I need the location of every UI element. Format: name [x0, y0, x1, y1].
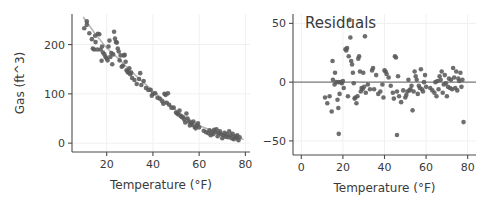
data-point	[452, 75, 457, 80]
y-tick-label: 200	[44, 39, 65, 52]
panel-gas-vs-temperature: 204060800100200Temperature (°F)Gas (ft^3…	[0, 0, 252, 222]
data-point	[378, 89, 383, 94]
data-points	[323, 18, 466, 138]
data-point	[197, 125, 202, 130]
data-point	[335, 97, 340, 102]
data-point	[351, 70, 356, 75]
data-point	[419, 67, 424, 72]
y-tick-label: 0	[58, 137, 65, 150]
data-point	[329, 109, 334, 114]
data-point	[443, 73, 448, 78]
data-point	[346, 94, 351, 99]
panel-residuals-vs-temperature: 020406080−50050Temperature (°F)Residuals	[252, 0, 498, 222]
data-point	[336, 132, 341, 137]
data-point	[388, 83, 393, 88]
fit-line	[84, 17, 244, 139]
data-point	[116, 49, 121, 54]
x-axis-title: Temperature (°F)	[332, 181, 435, 195]
data-point	[395, 133, 400, 138]
data-point	[333, 70, 338, 75]
data-point	[129, 70, 134, 75]
data-point	[410, 108, 415, 113]
data-point	[434, 94, 439, 99]
data-point	[153, 91, 158, 96]
data-point	[99, 59, 104, 64]
data-point	[381, 95, 386, 100]
data-point	[374, 73, 379, 78]
y-tick-label: 100	[44, 88, 65, 101]
data-point	[138, 71, 143, 76]
data-point	[191, 119, 196, 124]
panel-title: Residuals	[305, 14, 376, 32]
x-tick-label: 0	[298, 161, 305, 174]
data-point	[368, 87, 373, 92]
x-tick-label: 20	[100, 158, 114, 171]
data-point	[123, 60, 128, 65]
data-point	[411, 89, 416, 94]
data-point	[177, 108, 182, 113]
data-point	[423, 73, 428, 78]
data-point	[97, 32, 102, 37]
x-axis-title: Temperature (°F)	[109, 178, 212, 192]
data-point	[351, 81, 356, 86]
data-point	[421, 89, 426, 94]
data-point	[139, 83, 144, 88]
data-point	[459, 85, 464, 90]
data-point	[90, 37, 95, 42]
data-point	[330, 59, 335, 64]
data-point	[112, 29, 117, 34]
data-point	[93, 40, 98, 45]
data-point	[327, 94, 332, 99]
data-point	[117, 58, 122, 63]
data-point	[414, 78, 419, 83]
y-axis-title: Gas (ft^3)	[13, 52, 27, 115]
data-point	[371, 66, 376, 71]
data-point	[438, 78, 443, 83]
data-point	[409, 83, 414, 88]
data-point	[141, 79, 146, 84]
data-point	[424, 85, 429, 90]
data-point	[366, 82, 371, 87]
data-point	[196, 121, 201, 126]
x-tick-label: 80	[238, 158, 252, 171]
data-point	[401, 88, 406, 93]
data-points	[82, 19, 242, 142]
data-point	[341, 86, 346, 91]
data-point	[148, 88, 153, 93]
data-point	[337, 92, 342, 97]
data-point	[391, 90, 396, 95]
x-tick-label: 20	[336, 161, 350, 174]
residuals-scatter-plot: 020406080−50050Temperature (°F)Residuals	[252, 0, 498, 222]
y-tick-label: 0	[279, 76, 286, 89]
data-point	[396, 74, 401, 79]
data-point	[122, 53, 127, 58]
data-point	[346, 54, 351, 59]
data-point	[341, 79, 346, 84]
data-point	[380, 82, 385, 87]
x-tick-label: 80	[461, 161, 475, 174]
x-tick-label: 40	[146, 158, 160, 171]
data-point	[345, 46, 350, 51]
data-point	[100, 44, 105, 49]
data-point	[422, 80, 427, 85]
data-point	[357, 54, 362, 59]
data-point	[121, 63, 126, 68]
x-tick-label: 60	[419, 161, 433, 174]
data-point	[458, 70, 463, 75]
data-point	[392, 96, 397, 101]
data-point	[171, 105, 176, 110]
data-point	[461, 120, 466, 125]
data-point	[372, 87, 377, 92]
data-point	[363, 34, 368, 39]
data-point	[354, 101, 359, 106]
y-tick-label: −50	[263, 135, 286, 148]
data-point	[132, 78, 137, 83]
data-point	[237, 135, 242, 140]
data-point	[455, 88, 460, 93]
data-point	[436, 87, 441, 92]
data-point	[111, 52, 116, 57]
data-point	[184, 111, 189, 116]
x-tick-label: 40	[378, 161, 392, 174]
data-point	[115, 40, 120, 45]
data-point	[348, 35, 353, 40]
